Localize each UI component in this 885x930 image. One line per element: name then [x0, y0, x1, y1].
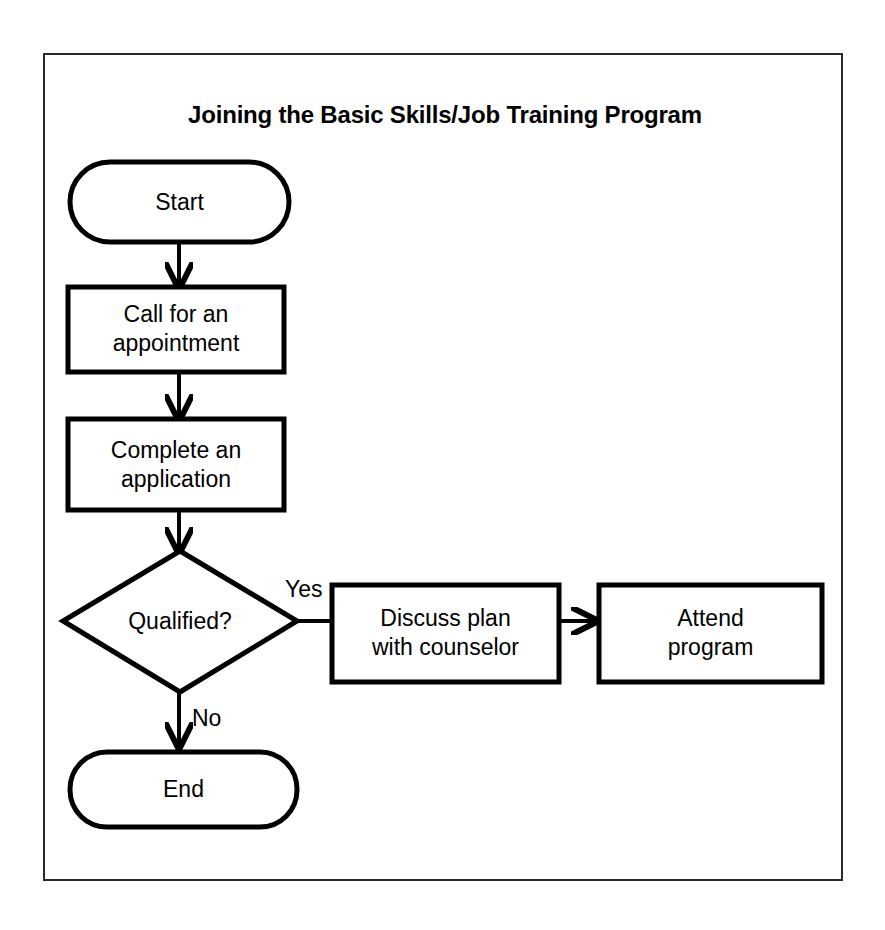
flowchart-canvas	[45, 55, 845, 883]
figure-frame: Joining the Basic Skills/Job Training Pr…	[43, 53, 843, 881]
node-call	[68, 287, 284, 372]
node-application	[68, 419, 284, 510]
node-start	[70, 162, 289, 242]
edge-label-yes: Yes	[285, 576, 323, 602]
edge-label-no: No	[192, 705, 221, 731]
node-end	[70, 752, 297, 827]
node-discuss	[332, 585, 559, 682]
node-qualified	[63, 551, 297, 692]
node-attend	[599, 585, 822, 682]
